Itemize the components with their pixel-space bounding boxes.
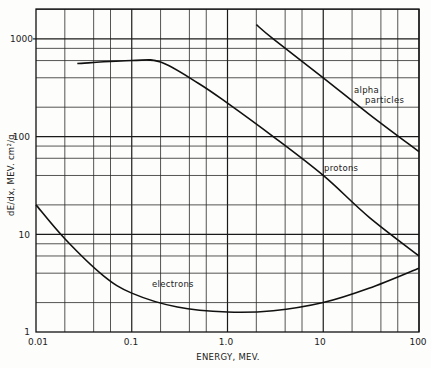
x-tick-10: 10 xyxy=(314,337,326,347)
y-tick-10: 10 xyxy=(19,230,31,240)
x-axis-label: ENERGY, MEV. xyxy=(196,352,260,362)
y-tick-1000: 1000 xyxy=(10,34,33,44)
electrons-label: electrons xyxy=(152,279,194,289)
x-tick-1.0: 1.0 xyxy=(219,337,234,347)
alpha-label-line2: particles xyxy=(365,95,404,105)
y-axis-label: dE/dx, MEV. cm²/g xyxy=(6,134,16,216)
protons-label: protons xyxy=(324,163,359,173)
alpha-label-line1: alpha xyxy=(354,85,379,95)
x-tick-0.1: 0.1 xyxy=(124,337,138,347)
x-tick-0.01: 0.01 xyxy=(28,337,48,347)
stopping-power-chart: 1 10 100 1000 0.01 0.1 1.0 10 100 ENERGY… xyxy=(0,0,431,368)
alpha-particles-curve xyxy=(256,25,419,152)
x-tick-100: 100 xyxy=(409,337,426,347)
grid-lines xyxy=(33,9,419,332)
y-tick-1: 1 xyxy=(24,327,30,337)
